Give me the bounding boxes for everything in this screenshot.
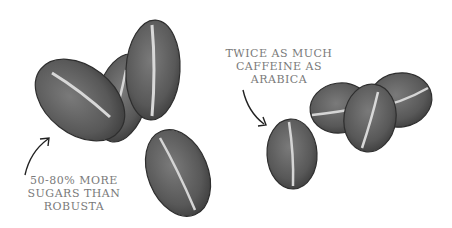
arabica-caption: 50-80% MORE SUGARS THAN ROBUSTA	[20, 174, 128, 213]
caption-line: 50-80% MORE	[20, 174, 128, 187]
robusta-caption: TWICE AS MUCH CAFFEINE AS ARABICA	[224, 47, 334, 86]
robusta-bean-single	[265, 118, 319, 191]
arrow-icon-left	[25, 138, 49, 175]
caption-line: TWICE AS MUCH	[224, 47, 334, 60]
arrow-icon-right	[243, 90, 266, 126]
arabica-bean-upright	[123, 19, 182, 122]
caption-line: ARABICA	[224, 73, 334, 86]
caption-line: SUGARS THAN	[20, 187, 128, 200]
caption-line: ROBUSTA	[20, 200, 128, 213]
caption-line: CAFFEINE AS	[224, 60, 334, 73]
arabica-bean-lower	[133, 120, 222, 226]
coffee-illustration: 50-80% MORE SUGARS THAN ROBUSTA TWICE AS…	[0, 0, 452, 228]
